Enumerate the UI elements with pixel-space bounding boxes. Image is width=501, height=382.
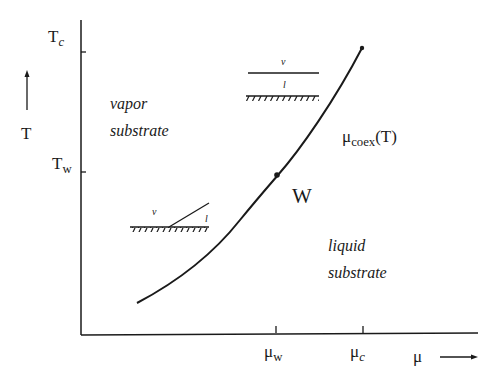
wetting-point [274, 172, 280, 178]
x-axis-label: μ [413, 348, 422, 365]
wetting-point-label: W [292, 186, 312, 207]
diagram-graphics [0, 0, 501, 382]
inset-wet-hatch [246, 96, 319, 101]
tick-label-muc: μc [350, 343, 365, 364]
coexistence-curve-label: μcoex(T) [342, 128, 397, 149]
phase-diagram: T μ Tc Tw μw μc μcoex(T) W vapor substra… [0, 0, 501, 382]
x-axis [81, 333, 478, 335]
inset-partial-hatch [130, 227, 209, 232]
mu-arrowhead-icon [471, 355, 478, 360]
inset-partial-liquid-label: l [205, 214, 208, 224]
t-arrowhead-icon [25, 70, 30, 77]
liquid-region-label: liquid substrate [328, 232, 387, 286]
critical-point [360, 46, 364, 50]
inset-wet-vapor-label: v [281, 57, 285, 67]
y-axis-label: T [21, 125, 31, 142]
tick-label-tc: Tc [48, 28, 64, 49]
inset-partial-vapor-label: v [152, 207, 156, 217]
tick-label-muw: μw [264, 343, 282, 364]
vapor-region-label: vapor substrate [110, 90, 169, 144]
inset-wet-liquid-label: l [283, 80, 286, 90]
tick-label-tw: Tw [52, 155, 72, 176]
inset-partial-interface [169, 203, 209, 227]
